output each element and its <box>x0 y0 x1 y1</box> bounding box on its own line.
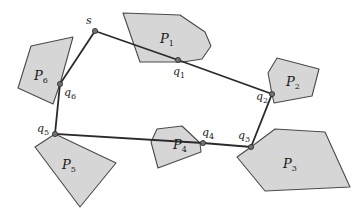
polygon-layer <box>18 13 350 207</box>
touch-point-q3 <box>248 144 253 149</box>
touch-point-label-q4: q4 <box>202 126 214 141</box>
start-point <box>92 28 97 33</box>
touch-point-q6 <box>57 81 62 86</box>
touch-point-label-q3: q3 <box>238 129 250 144</box>
touch-point-label-q6: q6 <box>64 86 76 101</box>
touch-point-q5 <box>52 131 57 136</box>
touch-point-q4 <box>200 140 205 145</box>
touch-point-label-q1: q1 <box>173 65 185 80</box>
touch-point-q2 <box>269 91 274 96</box>
touch-point-q1 <box>175 57 180 62</box>
shortest-path-diagram: P1P2P3P4P5P6sq1q2q3q4q5q6 <box>0 0 364 219</box>
touch-point-label-q5: q5 <box>37 122 49 137</box>
start-label: s <box>86 14 92 27</box>
